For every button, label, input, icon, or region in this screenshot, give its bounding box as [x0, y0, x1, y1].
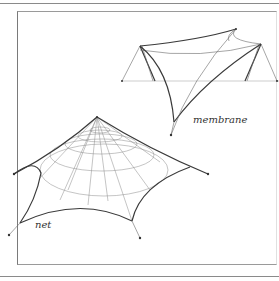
net-label: net — [35, 219, 52, 230]
net-structure: net — [8, 116, 209, 239]
membrane-right-edge — [174, 44, 261, 122]
right-guy-cable — [261, 44, 277, 81]
membrane-top-edge — [140, 29, 236, 46]
membrane-label: membrane — [193, 114, 247, 125]
tensile-structures-illustration: membrane net — [0, 0, 279, 281]
net-left-edge-cable — [14, 166, 41, 223]
net-right-edge-cable — [132, 167, 190, 221]
net-right-ridge-cable — [97, 117, 208, 174]
left-guy-cable — [122, 46, 140, 81]
membrane-structure: membrane — [121, 28, 279, 136]
net-radial-cables — [40, 117, 160, 221]
